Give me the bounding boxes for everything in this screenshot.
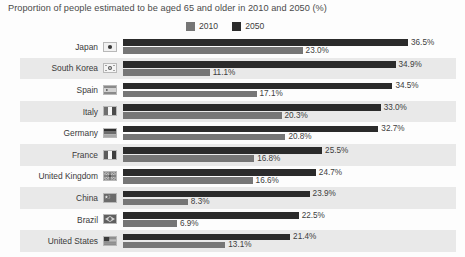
bar-2050-value: 32.7% [378,124,404,133]
bar-2010-fill [123,155,254,162]
bar-group: 36.5%23.0% [123,36,465,58]
flag-spain-icon [103,85,117,95]
bar-2050-value: 23.9% [310,189,336,198]
chart-row: France25.5%16.8% [0,144,465,166]
chart-row: South Korea34.9%11.1% [0,58,465,80]
bar-2050-fill [123,83,392,90]
bar-2010: 6.9% [123,220,177,227]
bar-2010-fill [123,47,303,54]
bar-2050: 36.5% [123,39,408,46]
bar-2010-value: 6.9% [177,219,199,228]
flag-china-icon [103,193,117,203]
bar-group: 25.5%16.8% [123,144,465,166]
legend-label-2050: 2050 [245,22,264,31]
bar-2010-value: 16.6% [253,176,279,185]
bar-2010-value: 11.1% [210,68,236,77]
bar-group: 23.9%8.3% [123,187,465,209]
bar-2010-fill [123,134,285,141]
bar-group: 34.9%11.1% [123,58,465,80]
bar-2050-value: 34.9% [396,60,422,69]
plot-area: Japan36.5%23.0%South Korea34.9%11.1%Spai… [0,36,465,254]
chart-row: Spain34.5%17.1% [0,79,465,101]
bar-group: 34.5%17.1% [123,79,465,101]
bar-2050-fill [123,212,299,219]
bar-group: 22.5%6.9% [123,209,465,231]
bar-2050-fill [123,147,322,154]
chart-title: Proportion of people estimated to be age… [8,3,327,13]
chart-row: United States21.4%13.1% [0,230,465,252]
bar-2010-value: 8.3% [188,197,210,206]
bar-2010-fill [123,91,257,98]
bar-2050-fill [123,104,381,111]
flag-united-states-icon [103,236,117,246]
bar-2010-value: 13.1% [225,240,251,249]
bar-2010-value: 23.0% [303,46,329,55]
bar-2010: 16.6% [123,177,253,184]
country-label: Italy [20,101,98,123]
bar-2050: 22.5% [123,212,299,219]
chart-legend: 2010 2050 [186,22,264,31]
bar-2010: 20.8% [123,134,285,141]
bar-2050-fill [123,169,316,176]
chart-row: Brazil22.5%6.9% [0,209,465,231]
flag-germany-icon [103,128,117,138]
legend-swatch-2050-icon [232,22,241,31]
bar-2050: 34.9% [123,61,396,68]
chart-row: United Kingdom24.7%16.6% [0,166,465,188]
chart-container: Proportion of people estimated to be age… [0,0,465,257]
bar-2010: 17.1% [123,91,257,98]
legend-item-2010: 2010 [186,22,218,31]
bar-2010: 8.3% [123,199,188,206]
legend-item-2050: 2050 [232,22,264,31]
country-label: South Korea [20,58,98,80]
bar-2050: 34.5% [123,83,392,90]
flag-italy-icon [103,106,117,116]
bar-2050-value: 36.5% [408,38,434,47]
bar-2010: 23.0% [123,47,303,54]
bar-2050-value: 33.0% [381,103,407,112]
country-label: United Kingdom [20,166,98,188]
legend-swatch-2010-icon [186,22,195,31]
bar-2010-fill [123,199,188,206]
bar-2050: 24.7% [123,169,316,176]
bar-2050-value: 25.5% [322,146,348,155]
bar-2010: 16.8% [123,155,254,162]
country-label: Brazil [20,209,98,231]
country-label: China [20,187,98,209]
bar-2010: 13.1% [123,242,225,249]
flag-france-icon [103,150,117,160]
country-label: Spain [20,79,98,101]
legend-label-2010: 2010 [199,22,218,31]
bar-group: 21.4%13.1% [123,230,465,252]
bar-2050-value: 22.5% [299,211,325,220]
bar-2050-fill [123,39,408,46]
bar-2050: 23.9% [123,191,310,198]
bar-2050: 25.5% [123,147,322,154]
flag-japan-icon [103,42,117,52]
chart-row: Germany32.7%20.8% [0,122,465,144]
bar-2010-value: 20.8% [285,132,311,141]
bar-2010-value: 20.3% [282,111,308,120]
chart-row: China23.9%8.3% [0,187,465,209]
bar-2010-value: 16.8% [254,154,280,163]
bar-2010-value: 17.1% [257,89,283,98]
bar-2050-fill [123,126,378,133]
bar-group: 33.0%20.3% [123,101,465,123]
bar-2010: 11.1% [123,69,210,76]
bar-2050-fill [123,234,290,241]
bar-2050-value: 24.7% [316,168,342,177]
bar-2010-fill [123,177,253,184]
bar-2050-fill [123,61,396,68]
chart-row: Japan36.5%23.0% [0,36,465,58]
bar-2010-fill [123,69,210,76]
bar-2050: 32.7% [123,126,378,133]
bar-2010: 20.3% [123,112,282,119]
country-label: France [20,144,98,166]
country-label: Japan [20,36,98,58]
bar-2010-fill [123,220,177,227]
bar-2050: 21.4% [123,234,290,241]
chart-row: Italy33.0%20.3% [0,101,465,123]
country-label: Germany [20,122,98,144]
bar-2050-fill [123,191,310,198]
bar-2010-fill [123,242,225,249]
